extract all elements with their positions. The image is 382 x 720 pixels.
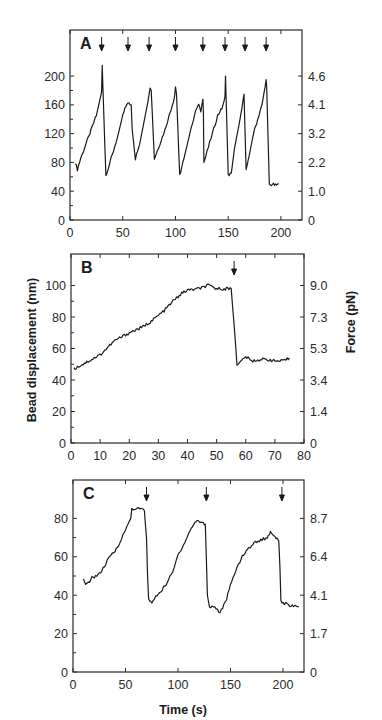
x-tick-label: 100 [168, 678, 189, 692]
x-axis-title: Time (s) [159, 703, 207, 717]
arrow-head-icon [232, 269, 237, 275]
y-right-tick-label: 6.4 [310, 550, 327, 564]
y-right-tick-label: 7.3 [310, 311, 327, 325]
x-tick-label: 200 [273, 678, 294, 692]
x-tick-label: 0 [68, 449, 75, 463]
x-tick-label: 150 [220, 678, 241, 692]
plot-frame [73, 480, 304, 672]
y-right-tick-label: 0 [310, 437, 317, 451]
y-right-tick-label: 5.3 [310, 342, 327, 356]
y-right-tick-label: 9.0 [310, 279, 327, 293]
x-tick-label: 150 [218, 226, 239, 240]
arrow-head-icon [223, 45, 228, 51]
y-axis-title-left: Bead displacement (nm) [25, 278, 39, 422]
y-tick-label: 20 [52, 405, 66, 419]
displacement-trace [84, 508, 299, 613]
arrow-head-icon [204, 495, 209, 501]
x-tick-label: 0 [67, 226, 74, 240]
y-right-tick-label: 4.6 [308, 70, 325, 84]
x-tick-label: 50 [210, 449, 224, 463]
plot-frame [71, 254, 304, 443]
arrow-head-icon [200, 45, 205, 51]
panel-b: 0102030405060708002040608010001.43.45.37… [45, 254, 327, 463]
x-tick-label: 0 [70, 678, 77, 692]
x-tick-label: 100 [165, 226, 186, 240]
x-tick-label: 50 [119, 678, 133, 692]
y-tick-label: 80 [51, 156, 65, 170]
panel-c: 05010015020002040608001.74.16.48.7C [54, 480, 327, 692]
x-tick-label: 80 [297, 449, 311, 463]
y-right-tick-label: 3.2 [308, 127, 325, 141]
y-right-tick-label: 0 [308, 214, 315, 228]
y-tick-label: 80 [52, 311, 66, 325]
panel-letter: A [80, 35, 92, 52]
y-tick-label: 0 [59, 437, 66, 451]
arrow-head-icon [279, 495, 284, 501]
panel-letter: C [83, 485, 95, 502]
y-tick-label: 80 [54, 512, 68, 526]
displacement-trace [74, 284, 290, 369]
x-tick-label: 60 [239, 449, 253, 463]
y-tick-label: 60 [52, 342, 66, 356]
y-tick-label: 100 [45, 279, 66, 293]
y-right-tick-label: 8.7 [310, 512, 327, 526]
y-right-tick-label: 1.0 [308, 185, 325, 199]
panel-letter: B [81, 259, 93, 276]
y-right-tick-label: 1.4 [310, 405, 327, 419]
figure: 0501001502000408012016020001.02.23.24.14… [0, 0, 382, 720]
y-tick-label: 20 [54, 627, 68, 641]
y-tick-label: 120 [44, 127, 65, 141]
arrow-head-icon [173, 45, 178, 51]
displacement-trace [75, 65, 278, 185]
arrow-head-icon [243, 45, 248, 51]
x-tick-label: 20 [122, 449, 136, 463]
panel-a: 0501001502000408012016020001.02.23.24.14… [44, 30, 325, 240]
y-tick-label: 160 [44, 98, 65, 112]
x-tick-label: 200 [270, 226, 291, 240]
x-tick-label: 70 [268, 449, 282, 463]
y-tick-label: 40 [54, 589, 68, 603]
y-right-tick-label: 2.2 [308, 156, 325, 170]
arrow-head-icon [147, 45, 152, 51]
y-right-tick-label: 4.1 [310, 589, 327, 603]
x-tick-label: 40 [181, 449, 195, 463]
y-tick-label: 40 [51, 185, 65, 199]
y-tick-label: 0 [61, 666, 68, 680]
arrow-head-icon [264, 45, 269, 51]
y-axis-title-right: Force (pN) [344, 291, 358, 354]
y-right-tick-label: 3.4 [310, 374, 327, 388]
y-right-tick-label: 0 [310, 666, 317, 680]
arrow-head-icon [144, 495, 149, 501]
arrow-head-icon [126, 45, 131, 51]
x-tick-label: 10 [93, 449, 107, 463]
y-tick-label: 40 [52, 374, 66, 388]
y-right-tick-label: 4.1 [308, 98, 325, 112]
y-tick-label: 200 [44, 70, 65, 84]
arrow-head-icon [99, 45, 104, 51]
y-tick-label: 0 [58, 214, 65, 228]
x-tick-label: 50 [116, 226, 130, 240]
y-tick-label: 60 [54, 550, 68, 564]
y-right-tick-label: 1.7 [310, 627, 327, 641]
x-tick-label: 30 [151, 449, 165, 463]
